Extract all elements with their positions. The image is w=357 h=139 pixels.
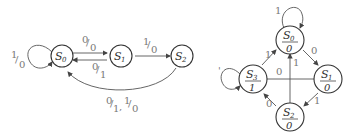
svg-text:2: 2 (181, 56, 187, 64)
svg-text:1: 1 (314, 95, 320, 106)
svg-text:1: 1 (100, 69, 106, 80)
svg-text:0: 0 (324, 82, 331, 93)
svg-text:0: 0 (276, 66, 282, 77)
svg-text:0: 0 (286, 120, 293, 131)
mealy-diagram: 1 / 0 0 / 0 0 / 1 1 / 0 0 / 1 , 1 / 0 S … (11, 34, 193, 114)
state-s2-moore: S 2 0 (276, 103, 304, 131)
edge-s0-s0-moore (282, 7, 303, 28)
state-s1: S 1 (110, 45, 132, 67)
state-s3-moore: S 3 1 (239, 65, 267, 93)
state-diagrams: 1 / 0 0 / 0 0 / 1 1 / 0 0 / 1 , 1 / 0 S … (0, 0, 357, 139)
svg-text:0: 0 (132, 103, 138, 114)
svg-text:': ' (218, 65, 221, 76)
svg-text:0: 0 (311, 45, 317, 56)
state-s0: S 0 (51, 45, 73, 67)
svg-text:,: , (119, 101, 122, 112)
svg-text:1: 1 (275, 5, 281, 16)
svg-text:1: 1 (249, 82, 255, 93)
moore-diagram: 1 0 0 1 1 0 1 ' S 0 0 S (218, 5, 342, 131)
state-s0-moore: S 0 0 (276, 26, 304, 54)
svg-text:0: 0 (266, 98, 272, 109)
state-s1-moore: S 1 0 (314, 65, 342, 93)
edge-s2-s0 (68, 68, 176, 90)
svg-text:0: 0 (62, 56, 67, 64)
edge-s0-s0 (28, 45, 52, 68)
svg-text:1: 1 (293, 57, 299, 68)
edge-s3-s3-moore (221, 69, 240, 90)
state-s2: S 2 (171, 45, 193, 67)
svg-text:0: 0 (151, 44, 157, 55)
label-s0-s0-out: 0 (19, 59, 25, 70)
svg-text:0: 0 (90, 42, 96, 53)
svg-text:1: 1 (121, 56, 125, 64)
svg-text:0: 0 (286, 43, 293, 54)
svg-text:1: 1 (265, 49, 271, 60)
